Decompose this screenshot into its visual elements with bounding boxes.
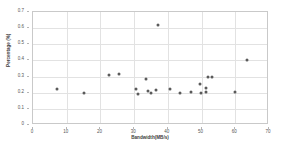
gridline-vertical — [67, 12, 68, 123]
y-tick-label: 0.6 — [18, 25, 24, 30]
x-tick-label: 30 — [131, 130, 136, 135]
x-tick-mark — [167, 127, 168, 129]
data-point — [199, 92, 202, 95]
y-tick-mark — [27, 124, 29, 125]
y-tick-mark — [27, 59, 29, 60]
gridline-vertical — [202, 12, 203, 123]
y-tick-mark — [27, 43, 29, 44]
y-tick-label: 0.1 — [18, 106, 24, 111]
data-point — [55, 88, 58, 91]
data-point — [190, 90, 193, 93]
y-tick-label: 0.4 — [18, 57, 24, 62]
x-tick-mark — [268, 127, 269, 129]
x-axis-title: Bandwidth(MB/s) — [32, 136, 268, 141]
x-tick-label: 50 — [198, 130, 203, 135]
gridline-horizontal — [33, 28, 267, 29]
data-point — [246, 59, 249, 62]
data-point — [178, 91, 181, 94]
y-tick-label: 0.7 — [18, 9, 24, 14]
data-point — [150, 92, 153, 95]
data-point — [211, 76, 214, 79]
x-tick-label: 40 — [164, 130, 169, 135]
y-axis-tick-labels: 00.10.20.30.40.50.60.7 — [0, 11, 29, 124]
data-point — [155, 89, 158, 92]
data-point — [204, 91, 207, 94]
gridline-vertical — [235, 12, 236, 123]
x-tick-mark — [201, 127, 202, 129]
data-point — [82, 92, 85, 95]
y-tick-mark — [27, 108, 29, 109]
data-point — [207, 76, 210, 79]
scatter-chart: 00.10.20.30.40.50.60.7 010203040506070 B… — [0, 0, 284, 151]
data-point — [168, 88, 171, 91]
gridline-horizontal — [33, 44, 267, 45]
x-tick-label: 20 — [97, 130, 102, 135]
data-point — [144, 77, 147, 80]
y-tick-label: 0.5 — [18, 41, 24, 46]
x-tick-label: 60 — [232, 130, 237, 135]
x-tick-mark — [133, 127, 134, 129]
y-tick-label: 0 — [21, 122, 24, 127]
gridline-vertical — [100, 12, 101, 123]
y-tick-label: 0.2 — [18, 89, 24, 94]
gridline-horizontal — [33, 77, 267, 78]
y-tick-mark — [27, 76, 29, 77]
x-axis-tick-labels: 010203040506070 — [32, 127, 268, 135]
x-tick-label: 70 — [265, 130, 270, 135]
gridline-horizontal — [33, 60, 267, 61]
gridline-vertical — [134, 12, 135, 123]
data-point — [157, 23, 160, 26]
x-tick-mark — [66, 127, 67, 129]
x-tick-label: 10 — [63, 130, 68, 135]
y-tick-mark — [27, 92, 29, 93]
y-tick-mark — [27, 11, 29, 12]
data-point — [107, 74, 110, 77]
x-tick-mark — [32, 127, 33, 129]
gridline-horizontal — [33, 109, 267, 110]
y-axis-title: Percentage (%) — [7, 15, 12, 85]
x-tick-label: 0 — [31, 130, 34, 135]
data-point — [234, 91, 237, 94]
data-point — [204, 86, 207, 89]
gridline-vertical — [168, 12, 169, 123]
data-point — [136, 92, 139, 95]
y-tick-label: 0.3 — [18, 73, 24, 78]
y-tick-mark — [27, 27, 29, 28]
data-point — [134, 87, 137, 90]
x-tick-mark — [234, 127, 235, 129]
x-tick-mark — [99, 127, 100, 129]
plot-area — [32, 11, 268, 124]
data-point — [198, 83, 201, 86]
data-point — [117, 73, 120, 76]
